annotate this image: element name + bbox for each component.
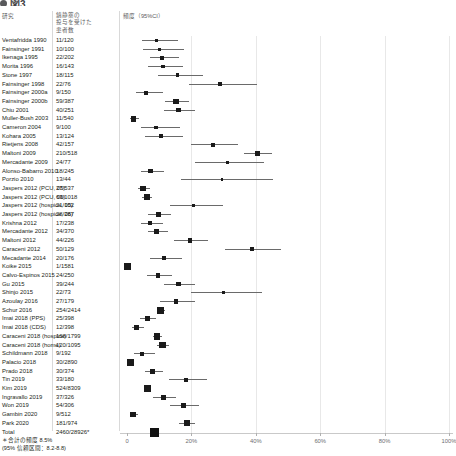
forest-row: Chiu 200140/251	[0, 106, 453, 115]
forest-row: Muller-Bush 200311/540	[0, 114, 453, 123]
point-estimate-marker	[176, 282, 180, 286]
row-study-label: Maltoni 2012	[2, 236, 36, 245]
point-estimate-marker	[154, 229, 159, 234]
forest-row: Jaspers 2012 (hospice, 05)21/102	[0, 201, 453, 210]
point-estimate-marker	[173, 99, 178, 104]
forest-row: Prado 201830/374	[0, 367, 453, 376]
row-count-value: 59/387	[56, 97, 74, 106]
confidence-interval-line	[191, 292, 262, 293]
forest-row: Ikenaga 199522/202	[0, 53, 453, 62]
point-estimate-marker	[134, 325, 139, 330]
row-count-value: 44/226	[56, 236, 74, 245]
row-study-label: Porzio 2010	[2, 175, 33, 184]
point-estimate-marker	[250, 247, 254, 251]
point-estimate-marker	[221, 178, 224, 181]
forest-row: Park 2020181/974	[0, 419, 453, 428]
row-study-label: Fainsinger 1991	[2, 45, 44, 54]
point-estimate-marker	[131, 116, 137, 122]
row-count-value: 168/1799	[56, 332, 81, 341]
point-estimate-marker	[174, 299, 178, 303]
row-study-label: Tin 2019	[2, 375, 25, 384]
footnote: ＊合計の頻度 8.5% (95% 信頼区間：8.2-8.8)	[2, 437, 66, 452]
row-study-label: Calvo-Espinos 2015	[2, 271, 55, 280]
forest-row: Caraceni 2018 (home)120/1095	[0, 341, 453, 350]
point-estimate-marker	[154, 333, 161, 340]
row-study-label: Koike 2015	[2, 262, 31, 271]
header-frequency: 頻度（95%CI）	[123, 12, 164, 20]
row-study-label: Gu 2015	[2, 280, 25, 289]
row-study-label: Azoulay 2016	[2, 297, 38, 306]
row-count-value: 33/180	[56, 375, 74, 384]
row-study-label: Maltoni 2009	[2, 149, 36, 158]
forest-row: Schur 2016254/2414	[0, 306, 453, 315]
row-study-label: Prado 2018	[2, 367, 32, 376]
forest-row: Kim 2019524/8309	[0, 384, 453, 393]
point-estimate-marker	[157, 307, 164, 314]
confidence-interval-line	[143, 49, 184, 50]
row-count-value: 18/245	[56, 167, 74, 176]
point-estimate-marker	[140, 352, 144, 356]
forest-row: Palacio 201830/2890	[0, 358, 453, 367]
point-estimate-marker	[127, 359, 134, 366]
row-study-label: Imai 2018 (PPS)	[2, 314, 45, 323]
point-estimate-marker	[176, 108, 181, 113]
forest-row: Koike 20151/1581	[0, 262, 453, 271]
row-count-value: 9/512	[56, 410, 71, 419]
forest-row-total: Total2460/28926*	[0, 428, 453, 437]
bullet-icon	[0, 0, 7, 6]
row-study-label: Mecadante 2014	[2, 254, 46, 263]
confidence-interval-line	[148, 66, 183, 67]
row-study-label: Caraceni 2018 (home)	[2, 341, 61, 350]
forest-row: Won 201954/306	[0, 401, 453, 410]
confidence-interval-line	[189, 84, 258, 85]
forest-row: Schildmann 20189/192	[0, 349, 453, 358]
point-estimate-marker	[222, 291, 225, 294]
pooled-estimate-marker	[150, 428, 160, 438]
forest-row: Fainsinger 2000b59/387	[0, 97, 453, 106]
confidence-interval-line	[150, 258, 182, 259]
confidence-interval-line	[134, 353, 155, 354]
point-estimate-marker	[155, 39, 159, 43]
point-estimate-marker	[226, 161, 229, 164]
row-study-label: Park 2020	[2, 419, 29, 428]
figure-title: 図3	[0, 0, 200, 6]
point-estimate-marker	[160, 56, 164, 60]
point-estimate-marker	[188, 238, 192, 242]
row-study-label: Kim 2019	[2, 384, 27, 393]
row-count-value: 30/2890	[56, 358, 77, 367]
row-count-value: 34/370	[56, 227, 74, 236]
row-count-value: 2460/28926*	[56, 428, 89, 437]
forest-row: Kohara 200513/124	[0, 132, 453, 141]
row-count-value: 12/398	[56, 323, 74, 332]
forest-row: Caraceni 2018 (hospice)168/1799	[0, 332, 453, 341]
row-study-label: Schildmann 2018	[2, 349, 48, 358]
row-count-value: 42/157	[56, 140, 74, 149]
forest-row: Mercadante 201234/370	[0, 227, 453, 236]
row-study-label: Stone 1997	[2, 71, 32, 80]
figure-title-text: 図3	[10, 0, 26, 6]
forest-row: Ventafridda 199011/120	[0, 36, 453, 45]
forest-row: Stone 199718/115	[0, 71, 453, 80]
header-count: 鎮静薬の投与を受けた患者数	[56, 12, 114, 34]
row-study-label: Ingravallo 2019	[2, 393, 42, 402]
row-count-value: 28/287	[56, 210, 74, 219]
point-estimate-marker	[192, 204, 195, 207]
forest-row: Jaspers 2012 (PCU, 06)63/1018	[0, 193, 453, 202]
row-study-label: Morita 1996	[2, 62, 33, 71]
confidence-interval-line	[142, 40, 178, 41]
point-estimate-marker	[124, 263, 131, 270]
row-count-value: 25/398	[56, 314, 74, 323]
row-study-label: Imai 2018 (CDS)	[2, 323, 46, 332]
forest-row: Maltoni 201244/226	[0, 236, 453, 245]
point-estimate-marker	[156, 273, 161, 278]
forest-row: Morita 199616/143	[0, 62, 453, 71]
row-study-label: Palacio 2018	[2, 358, 36, 367]
forest-row: Mercadante 200924/77	[0, 158, 453, 167]
header-study: 研究	[2, 12, 14, 20]
forest-row: Porzio 201013/44	[0, 175, 453, 184]
x-tick-label-100: 100%	[442, 438, 456, 444]
confidence-interval-line	[195, 162, 265, 163]
row-count-value: 9/150	[56, 88, 71, 97]
forest-row: Calvo-Espinos 201524/250	[0, 271, 453, 280]
